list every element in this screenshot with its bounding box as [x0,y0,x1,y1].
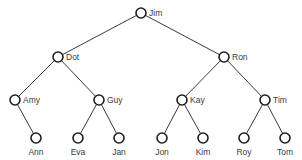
node-label: Jim [149,8,162,18]
node-circle-icon [53,52,63,62]
node-label: Amy [23,95,41,105]
tree-diagram: JimDotRonAmyGuyKayTimAnnEvaJanJonKimRoyT… [0,0,302,160]
node-circle-icon [73,133,83,143]
node-label: Kim [196,147,211,157]
edge-jim-dot [62,15,136,54]
node-label: Tom [277,147,293,157]
node-label: Tim [273,95,287,105]
edge-jim-ron [145,15,219,54]
edge-kay-jon [164,104,179,133]
node-label: Ron [232,52,248,62]
node-kim: Kim [196,133,211,157]
node-eva: Eva [71,133,86,157]
node-label: Jon [155,147,169,157]
node-label: Guy [107,95,123,105]
node-jim: Jim [136,8,162,18]
edge-kay-kim [184,104,200,133]
node-dot: Dot [53,52,80,62]
edge-tim-tom [267,104,282,133]
node-jon: Jon [155,133,169,157]
node-label: Eva [71,147,86,157]
node-circle-icon [280,133,290,143]
edge-ron-tim [227,61,261,97]
node-circle-icon [219,52,229,62]
node-circle-icon [260,95,270,105]
node-roy: Roy [236,133,252,157]
node-label: Dot [66,52,80,62]
node-tom: Tom [277,133,293,157]
node-label: Ann [28,147,43,157]
edge-guy-jan [101,104,116,133]
node-circle-icon [198,133,208,143]
edge-ron-kay [185,61,220,97]
node-ann: Ann [28,133,43,157]
node-label: Kay [190,95,205,105]
node-amy: Amy [10,95,41,105]
tree-edges [17,15,282,133]
node-circle-icon [136,8,146,18]
edge-tim-roy [246,104,262,133]
edge-amy-ann [17,104,33,133]
node-label: Jan [112,147,126,157]
node-guy: Guy [94,95,123,105]
node-circle-icon [177,95,187,105]
node-tim: Tim [260,95,287,105]
node-ron: Ron [219,52,248,62]
node-circle-icon [114,133,124,143]
node-circle-icon [239,133,249,143]
edge-guy-eva [80,104,96,133]
tree-nodes: JimDotRonAmyGuyKayTimAnnEvaJanJonKimRoyT… [10,8,293,157]
node-circle-icon [10,95,20,105]
node-jan: Jan [112,133,126,157]
node-circle-icon [94,95,104,105]
node-label: Roy [236,147,252,157]
node-kay: Kay [177,95,205,105]
node-circle-icon [157,133,167,143]
node-circle-icon [31,133,41,143]
edge-dot-guy [61,61,95,97]
edge-dot-amy [19,61,55,97]
